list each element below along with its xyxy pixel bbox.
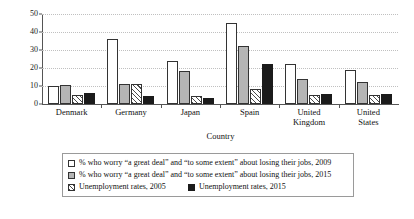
bar	[119, 84, 130, 104]
bar-group-bars	[220, 14, 279, 104]
bar-group	[279, 14, 338, 104]
legend-entry-unemployment-2015: Unemployment rates, 2015	[188, 183, 286, 191]
legend-swatch-worry-2009-icon	[68, 160, 75, 167]
bar	[309, 95, 320, 104]
bar	[369, 95, 380, 104]
y-axis-label-wrapper: Percent	[14, 16, 26, 106]
bar	[131, 84, 142, 104]
bar	[381, 94, 392, 104]
bar	[226, 23, 237, 104]
bar	[167, 61, 178, 104]
x-axis-category-label-line: Kingdom	[279, 118, 338, 128]
x-axis-category-label-line: Spain	[220, 108, 279, 118]
bar	[60, 85, 71, 104]
legend-row-1: % who worry “a great deal” and “to some …	[68, 157, 348, 169]
bar-group-bars	[101, 14, 160, 104]
bar	[297, 79, 308, 104]
bar	[191, 96, 202, 104]
legend-entry-unemployment-2005: Unemployment rates, 2005	[68, 183, 166, 191]
bar-group	[161, 14, 220, 104]
x-axis-label: Country	[42, 131, 399, 141]
bar	[84, 93, 95, 104]
bar	[321, 94, 332, 104]
bar	[357, 82, 368, 105]
bar	[48, 86, 59, 104]
legend-swatch-unemployment-2005-icon	[68, 184, 75, 191]
bar	[203, 98, 214, 104]
bar-group-bars	[279, 14, 338, 104]
bar	[238, 46, 249, 104]
x-axis-category-label-line: Japan	[161, 108, 220, 118]
legend-label-worry-2015: % who worry “a great deal” and “to some …	[79, 171, 331, 179]
bar-group	[101, 14, 160, 104]
legend-label-unemployment-2015: Unemployment rates, 2015	[199, 183, 286, 191]
bar-group	[339, 14, 398, 104]
x-axis-category-label: UnitedStates	[339, 108, 398, 127]
bar	[250, 89, 261, 104]
x-axis-category-label: Denmark	[42, 108, 101, 118]
legend-label-unemployment-2005: Unemployment rates, 2005	[79, 183, 166, 191]
bar-group-bars	[339, 14, 398, 104]
x-axis-category-label: UnitedKingdom	[279, 108, 338, 127]
y-axis-label: Percent	[0, 0, 8, 30]
x-axis-category-label: Germany	[101, 108, 160, 118]
legend-row-3: Unemployment rates, 2005 Unemployment ra…	[68, 181, 348, 193]
bar-group	[42, 14, 101, 104]
x-axis-category-label: Spain	[220, 108, 279, 118]
legend-swatch-worry-2015-icon	[68, 172, 75, 179]
bar	[285, 64, 296, 104]
bar	[262, 64, 273, 104]
x-axis-category-label: Japan	[161, 108, 220, 118]
bar	[72, 95, 83, 104]
legend-row-2: % who worry “a great deal” and “to some …	[68, 169, 348, 181]
x-axis-category-label-line: Germany	[101, 108, 160, 118]
plot-area: 01020304050	[42, 14, 398, 104]
legend-label-worry-2009: % who worry “a great deal” and “to some …	[79, 159, 331, 167]
bar-group-bars	[161, 14, 220, 104]
bar-chart-figure: Percent 01020304050 Country % who worry …	[0, 0, 414, 219]
chart-legend: % who worry “a great deal” and “to some …	[62, 153, 354, 197]
bar-group	[220, 14, 279, 104]
bar-group-bars	[42, 14, 101, 104]
x-axis-category-label-line: Denmark	[42, 108, 101, 118]
x-axis-category-label-line: States	[339, 118, 398, 128]
bar	[345, 70, 356, 104]
bar	[107, 39, 118, 104]
bar	[179, 71, 190, 104]
bar	[143, 96, 154, 104]
legend-swatch-unemployment-2015-icon	[188, 184, 195, 191]
